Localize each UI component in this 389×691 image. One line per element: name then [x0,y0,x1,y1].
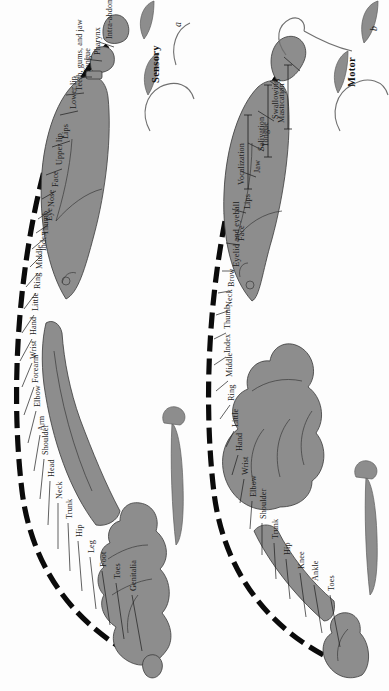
motor-label-mastication: Mastication [278,83,286,123]
motor-label-trunk: Trunk [272,519,280,539]
motor-panel-title: Motor [346,57,357,87]
sensory-label-nose: Nose [48,190,56,207]
sensory-label-lips: Lips [62,124,70,139]
sensory-label-trunk: Trunk [66,499,74,519]
motor-label-shoulder: Shoulder [260,489,268,519]
sensory-label-pharynx: Pharynx [94,27,102,55]
panel-sensory: Genitalia Toes Foot Leg Hip Trunk Neck H… [0,0,194,691]
sensory-homunculus-body [41,15,171,678]
sensory-label-leg: Leg [88,540,96,553]
sensory-label-hip: Hip [76,524,84,537]
motor-label-hip: Hip [284,542,292,555]
motor-label-knee: Knee [298,551,306,569]
motor-label-elbow: Elbow [250,475,258,497]
sensory-label-head: Head [48,459,56,477]
sensory-label-little: Little [32,293,40,311]
motor-label-face: Face [238,225,246,241]
motor-label-jaw: Jaw [254,160,262,173]
motor-label-wrist: Wrist [242,457,250,475]
sensory-label-genitalia: Genitalia [130,560,138,591]
sensory-label-face: Face [52,171,60,187]
motor-label-thumb: Thumb [224,305,232,329]
motor-panel-letter: b [368,26,379,31]
sensory-label-ring: Ring [34,273,42,289]
sensory-label-hand: Hand [30,317,38,335]
sensory-panel-letter: a [172,22,183,27]
motor-label-neck: Neck [226,289,234,307]
motor-label-brow: Brow [228,268,236,287]
motor-label-little: Little [232,409,240,427]
motor-label-toes: Toes [328,575,336,591]
motor-line-figures [279,1,388,595]
motor-label-hand: Hand [236,433,244,451]
motor-label-index: Index [224,334,232,353]
sensory-panel-title: Sensory [150,45,161,83]
sensory-label-intra-abdominal: Intra-abdominal [106,0,114,39]
sensory-label-wrist: Wrist [30,341,38,359]
sensory-label-arm: Arm [38,416,46,431]
motor-label-ring: Ring [228,385,236,401]
sensory-label-toes: Toes [114,563,122,579]
sensory-label-elbow: Elbow [34,385,42,407]
figure-page: Genitalia Toes Foot Leg Hip Trunk Neck H… [0,0,389,691]
sensory-label-neck: Neck [56,481,64,499]
sensory-label-foot: Foot [100,552,108,567]
panel-motor: Toes Ankle Knee Hip Trunk Shoulder Elbow… [194,0,388,691]
sensory-label-tongue: Tongue [84,48,92,73]
motor-stage: Toes Ankle Knee Hip Trunk Shoulder Elbow… [194,0,388,691]
sensory-label-eye: Eye [46,208,54,221]
motor-homunculus-body [223,36,369,677]
sensory-stage: Genitalia Toes Foot Leg Hip Trunk Neck H… [0,0,194,691]
motor-label-ankle: Ankle [312,560,320,581]
motor-label-middle: Middle [226,353,234,377]
motor-label-salivation: Salivation [258,117,266,151]
motor-label-lips: Lips [244,194,252,209]
motor-label-vocalization: Vocalization [238,143,246,185]
sensory-line-figures [140,1,194,545]
